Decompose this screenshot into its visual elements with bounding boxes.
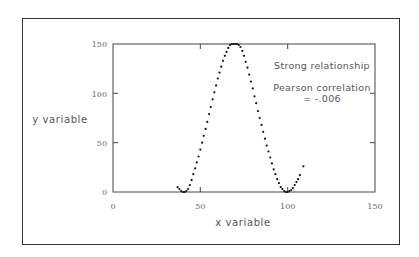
data-point xyxy=(222,60,224,62)
data-point xyxy=(185,190,187,192)
y-tick-label: 50 xyxy=(97,139,107,148)
data-point xyxy=(225,51,227,53)
scatter-chart: 150 100 50 0 0 50 100 150 y variable x v… xyxy=(0,0,419,257)
data-point xyxy=(210,106,212,108)
y-tick-label: 0 xyxy=(102,188,107,197)
data-point xyxy=(290,189,292,191)
data-point xyxy=(274,173,276,175)
data-point xyxy=(178,188,180,190)
data-point xyxy=(246,67,248,69)
data-point xyxy=(203,135,205,137)
data-point xyxy=(227,47,229,49)
data-point xyxy=(241,50,243,52)
data-point xyxy=(299,174,301,176)
data-point xyxy=(250,80,252,82)
data-point xyxy=(266,145,268,147)
data-point xyxy=(208,113,210,115)
x-tick-label: 100 xyxy=(280,202,295,211)
data-point xyxy=(271,162,273,164)
data-point xyxy=(273,168,275,170)
data-point xyxy=(269,156,271,158)
data-point xyxy=(220,66,222,68)
data-point xyxy=(238,44,240,46)
data-point xyxy=(201,142,203,144)
data-point xyxy=(212,98,214,100)
data-point xyxy=(218,72,220,74)
data-point xyxy=(177,186,179,188)
annotation-pearson-label: Pearson correlation xyxy=(273,82,370,93)
data-point xyxy=(248,74,250,76)
data-point xyxy=(199,149,201,151)
data-point xyxy=(213,91,215,93)
data-point xyxy=(297,178,299,180)
x-tick-label: 150 xyxy=(367,202,382,211)
x-tick-label: 50 xyxy=(195,202,205,211)
data-point xyxy=(191,179,193,181)
data-point xyxy=(278,182,280,184)
data-point xyxy=(259,117,261,119)
data-point xyxy=(267,150,269,152)
data-point xyxy=(224,55,226,57)
x-tick-label: 0 xyxy=(110,202,115,211)
data-point xyxy=(243,55,245,57)
data-point xyxy=(239,46,241,48)
data-point xyxy=(302,165,304,167)
data-point xyxy=(262,131,264,133)
annotation-pearson-value: = -.006 xyxy=(303,93,341,104)
data-point xyxy=(245,61,247,63)
data-point xyxy=(260,124,262,126)
data-point xyxy=(206,121,208,123)
y-tick-label: 150 xyxy=(92,40,107,49)
data-point xyxy=(217,77,219,79)
data-point xyxy=(264,138,266,140)
y-tick-label: 100 xyxy=(92,90,107,99)
y-axis-label: y variable xyxy=(32,114,87,125)
data-point xyxy=(253,95,255,97)
data-point xyxy=(196,161,198,163)
data-point xyxy=(281,188,283,190)
data-point xyxy=(205,128,207,130)
annotation-strong-relationship: Strong relationship xyxy=(274,60,370,71)
x-tick-labels: 0 50 100 150 xyxy=(110,202,382,211)
data-point xyxy=(189,184,191,186)
data-point xyxy=(255,102,257,104)
data-point xyxy=(187,188,189,190)
data-point xyxy=(280,186,282,188)
data-point xyxy=(257,110,259,112)
y-tick-labels: 150 100 50 0 xyxy=(92,40,107,197)
data-point xyxy=(252,87,254,89)
data-point xyxy=(295,181,297,183)
data-point xyxy=(215,84,217,86)
data-point xyxy=(194,167,196,169)
data-point xyxy=(292,187,294,189)
x-axis-label: x variable xyxy=(215,217,270,228)
data-point xyxy=(294,184,296,186)
data-point xyxy=(192,173,194,175)
data-point xyxy=(198,155,200,157)
data-point xyxy=(276,178,278,180)
